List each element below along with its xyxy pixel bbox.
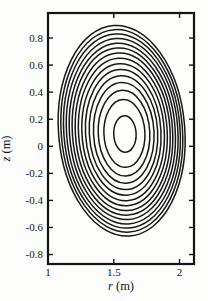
y-tick-label: -0.4 <box>26 194 44 206</box>
y-tick-label: 0.8 <box>29 32 43 44</box>
contour-line <box>102 99 146 169</box>
y-axis-label: z (m) <box>0 135 13 162</box>
contour-line <box>113 115 137 152</box>
x-tick-label: 2 <box>177 266 183 278</box>
y-axis-label-unit: (m) <box>0 135 13 156</box>
y-tick-label: 0.4 <box>29 86 43 98</box>
contour-plot: 11.52-0.8-0.6-0.4-0.200.20.40.60.8r (m)z… <box>0 0 208 301</box>
figure-page: 11.52-0.8-0.6-0.4-0.200.20.40.60.8r (m)z… <box>0 0 208 301</box>
y-tick-label: -0.2 <box>26 167 43 179</box>
y-tick-label: 0 <box>38 140 44 152</box>
y-tick-label: 0.2 <box>29 113 43 125</box>
contour-line <box>91 81 157 185</box>
x-axis-label-unit: (m) <box>113 279 134 293</box>
y-tick-label: -0.6 <box>26 221 44 233</box>
x-tick-label: 1 <box>45 266 51 278</box>
y-tick-label: 0.6 <box>29 59 43 71</box>
x-tick-label: 1.5 <box>107 266 121 278</box>
x-axis-label: r (m) <box>108 279 134 293</box>
y-tick-label: -0.8 <box>26 248 44 260</box>
